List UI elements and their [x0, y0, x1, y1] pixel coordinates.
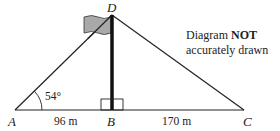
point-label-a: A [7, 114, 16, 129]
length-label-ab: 96 m [54, 115, 77, 127]
angle-label-a: 54° [45, 90, 62, 102]
note-line-2: accurately drawn [186, 43, 268, 57]
angle-arc-a [35, 91, 43, 110]
length-label-bc: 170 m [162, 115, 191, 127]
diagram-canvas: D A B C 54° 96 m 170 m Diagram NOT accur… [0, 0, 280, 131]
point-label-b: B [107, 114, 115, 129]
point-label-d: D [106, 0, 117, 15]
flag-icon [84, 16, 111, 35]
note-line-1: Diagram NOT [186, 28, 257, 42]
point-label-c: C [243, 114, 252, 129]
triangle-diagram: D A B C 54° 96 m 170 m Diagram NOT accur… [0, 0, 280, 131]
